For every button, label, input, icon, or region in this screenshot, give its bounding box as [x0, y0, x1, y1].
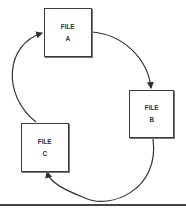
file-b-id: B — [149, 114, 154, 126]
file-c-node: FILE C — [21, 123, 69, 172]
file-a-id: A — [66, 33, 71, 45]
file-a-node: FILE A — [44, 8, 92, 57]
file-c-id: C — [43, 148, 48, 160]
file-b-label: FILE — [145, 102, 159, 114]
cycle-diagram: FILE A FILE B FILE C — [0, 0, 186, 211]
arrow-c-to-a — [12, 33, 42, 122]
file-c-label: FILE — [38, 136, 52, 148]
file-b-node: FILE B — [129, 90, 174, 138]
file-a-label: FILE — [61, 21, 75, 33]
bottom-divider — [0, 204, 186, 206]
arrow-a-to-b — [92, 32, 151, 88]
